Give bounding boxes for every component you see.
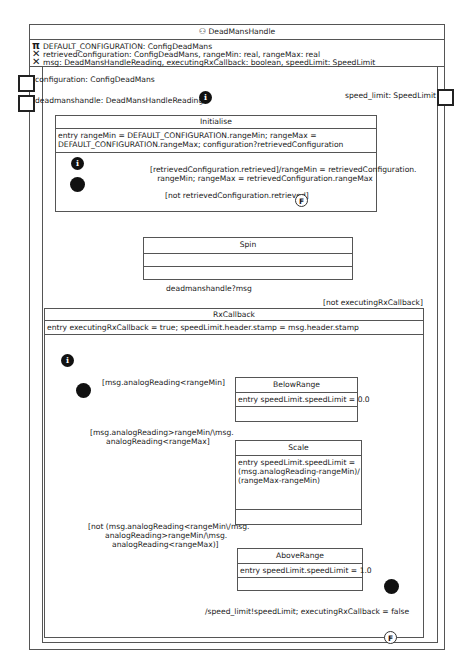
title-divider (29, 39, 445, 40)
guard-above-range-3[interactable]: analogReading<rangeMax)] (112, 540, 219, 550)
rxcallback-final-state[interactable]: F (384, 631, 397, 644)
state-rxcallback-entry: entry executingRxCallback = true; speedL… (47, 323, 359, 333)
state-rxcallback-name: RxCallback (44, 310, 424, 320)
component-title: ⚇ DeadMansHandle (29, 27, 445, 37)
declaration-variables-2: ✕msg: DeadMansHandleReading, executingRx… (32, 57, 375, 68)
transition-spin-to-rxcallback-label[interactable]: deadmanshandle?msg (166, 284, 252, 294)
initialise-junction[interactable] (70, 177, 85, 192)
rxcallback-merge-junction[interactable] (384, 579, 399, 594)
state-initialise-name: Initialise (55, 117, 377, 127)
transition-exit-action[interactable]: /speed_limit!speedLimit; executingRxCall… (205, 607, 409, 617)
transition-rxcallback-to-spin-label[interactable]: [not executingRxCallback] (323, 298, 423, 308)
port-deadmanshandle[interactable] (18, 95, 35, 112)
guard-scale-2[interactable]: analogReading<rangeMax] (106, 437, 210, 447)
state-above-range-name: AboveRange (237, 551, 363, 561)
state-below-range-entry: entry speedLimit.speedLimit = 0.0 (238, 395, 370, 405)
state-above-range-entry: entry speedLimit.speedLimit = 1.0 (240, 566, 372, 576)
state-machine-icon: ⚇ (199, 27, 206, 36)
port-configuration-label: configuration: ConfigDeadMans (35, 75, 155, 85)
state-initialise-entry-2: DEFAULT_CONFIGURATION.rangeMax; configur… (58, 140, 343, 150)
initialise-initial-pseudostate[interactable]: i (71, 157, 84, 170)
rxcallback-initial-pseudostate[interactable]: i (61, 354, 74, 367)
state-spin-name: Spin (143, 240, 353, 250)
initial-pseudostate[interactable]: i (199, 91, 212, 104)
guard-below-range[interactable]: [msg.analogReading<rangeMin] (102, 378, 225, 388)
rxcallback-choice-junction[interactable] (76, 383, 91, 398)
state-scale-name: Scale (235, 443, 362, 453)
state-scale-entry-3: (rangeMax-rangeMin) (238, 476, 320, 486)
port-speed-limit-label: speed_limit: SpeedLimit (340, 91, 436, 101)
initialise-final-state[interactable]: F (295, 194, 308, 207)
port-deadmanshandle-label: deadmanshandle: DeadMansHandleReading (35, 96, 203, 106)
port-speed-limit[interactable] (437, 89, 454, 106)
transition-not-retrieved-guard[interactable]: [not retrievedConfiguration.retrieved] (165, 191, 309, 201)
state-rxcallback[interactable] (44, 308, 424, 638)
state-below-range-name: BelowRange (235, 380, 358, 390)
transition-retrieved-guard-2[interactable]: rangeMin; rangeMax = retrievedConfigurat… (150, 174, 380, 184)
variable-x-icon: ✕ (32, 57, 43, 67)
port-configuration[interactable] (18, 75, 35, 92)
